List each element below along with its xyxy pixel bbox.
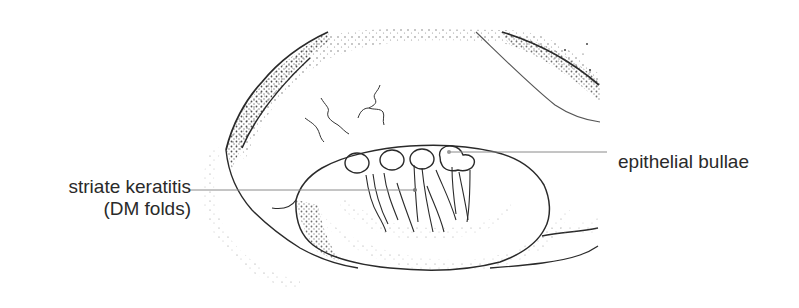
leader-dot-striate: [413, 188, 417, 192]
bullae-group: [345, 146, 474, 173]
lower-contour: [226, 150, 358, 268]
sclera-halo-left: [202, 145, 300, 290]
leader-dot-bullae: [447, 150, 451, 154]
corneal-vessels: [305, 85, 384, 142]
left-fold: [272, 200, 296, 209]
label-striate-keratitis-line1: striate keratitis: [69, 176, 191, 198]
label-striate-keratitis: striate keratitis (DM folds): [69, 176, 191, 220]
fold-shade: [340, 195, 512, 240]
label-striate-keratitis-line2: (DM folds): [69, 198, 191, 220]
label-epithelial-bullae: epithelial bullae: [618, 151, 749, 173]
